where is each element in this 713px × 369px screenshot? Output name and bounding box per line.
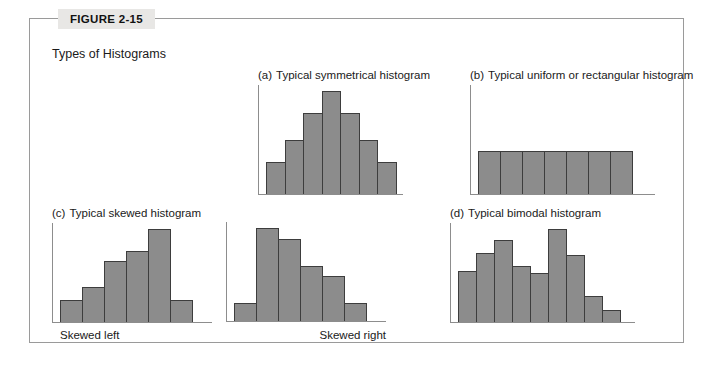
plot-area-skewed-right [226, 222, 386, 322]
plot-area-bimodal [450, 223, 635, 323]
panel-enumerator-d: (d) [450, 207, 464, 219]
y-axis-uniform [470, 85, 471, 195]
bar [458, 271, 477, 322]
panel-title-text-a: Typical symmetrical histogram [276, 69, 430, 81]
panel-enumerator-b: (b) [470, 69, 484, 81]
x-axis-symmetrical [258, 194, 403, 195]
bar [588, 151, 611, 194]
panel-skewed-right-histogram: Skewed right [226, 222, 386, 322]
bar [60, 300, 83, 322]
bar [610, 151, 633, 194]
plot-area-symmetrical [258, 85, 403, 195]
panel-title-c: (c)Typical skewed histogram [52, 207, 212, 219]
y-axis-skewed-left [52, 223, 53, 323]
bar [377, 162, 397, 194]
bar [322, 91, 342, 194]
figure-caption: Types of Histograms [52, 47, 166, 61]
plot-area-skewed-left [52, 223, 212, 323]
y-axis-skewed-right [226, 222, 227, 322]
bar [234, 303, 257, 321]
panel-enumerator-c: (c) [52, 207, 65, 219]
panel-symmetrical-histogram: (a)Typical symmetrical histogram [258, 69, 430, 195]
y-axis-bimodal [450, 223, 451, 323]
panel-enumerator-a: (a) [258, 69, 272, 81]
x-axis-bimodal [450, 322, 635, 323]
panel-bimodal-histogram: (d)Typical bimodal histogram [450, 207, 635, 323]
bar-group-skewed-left [60, 229, 193, 322]
bar [285, 140, 305, 194]
bar-group-bimodal [458, 229, 621, 322]
bar [566, 255, 585, 322]
bar-group-skewed-right [234, 228, 367, 321]
figure-number-tab: FIGURE 2-15 [58, 9, 155, 29]
x-axis-skewed-left [52, 322, 212, 323]
bar [478, 151, 501, 194]
panel-title-d: (d)Typical bimodal histogram [450, 207, 635, 219]
bar [170, 300, 193, 322]
bar [82, 287, 105, 322]
bar [476, 253, 495, 322]
bar [344, 303, 367, 321]
panel-title-text-d: Typical bimodal histogram [468, 207, 601, 219]
figure-number-label: FIGURE 2-15 [70, 13, 143, 25]
panel-title-a: (a)Typical symmetrical histogram [258, 69, 430, 81]
bar [544, 151, 567, 194]
bar [566, 151, 589, 194]
bar [300, 266, 323, 321]
bar [126, 251, 149, 322]
bar [148, 229, 171, 322]
bar [584, 296, 603, 322]
bar [322, 276, 345, 321]
bar [104, 261, 127, 322]
bar [266, 162, 286, 194]
bar [500, 151, 523, 194]
bar [530, 273, 549, 322]
figure-container: FIGURE 2-15 Types of Histograms (a)Typic… [29, 18, 684, 343]
panel-skewed-histogram: (c)Typical skewed histogram Skewed left [52, 207, 212, 323]
bar [494, 240, 513, 322]
x-axis-uniform [470, 194, 655, 195]
bar [512, 266, 531, 322]
bar-group-uniform [478, 151, 633, 194]
bar [359, 140, 379, 194]
bar [340, 113, 360, 194]
y-axis-symmetrical [258, 85, 259, 195]
sub-label-skewed-right: Skewed right [320, 329, 386, 341]
bar-group-symmetrical [266, 91, 397, 194]
bar [548, 229, 567, 322]
panel-title-text-b: Typical uniform or rectangular histogram [488, 69, 693, 81]
bar [522, 151, 545, 194]
x-axis-skewed-right [226, 321, 386, 322]
panel-title-text-c: Typical skewed histogram [69, 207, 201, 219]
sub-label-skewed-left: Skewed left [60, 329, 119, 341]
bar [602, 310, 621, 322]
bar [278, 239, 301, 321]
bar [256, 228, 279, 321]
panel-uniform-histogram: (b)Typical uniform or rectangular histog… [470, 69, 693, 195]
plot-area-uniform [470, 85, 655, 195]
panel-title-b: (b)Typical uniform or rectangular histog… [470, 69, 693, 81]
bar [303, 113, 323, 194]
